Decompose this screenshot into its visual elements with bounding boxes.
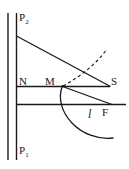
label-n: N	[19, 76, 27, 87]
label-curve-l: l	[88, 108, 91, 120]
label-m: M	[45, 76, 55, 87]
label-p2: P2	[19, 12, 29, 26]
label-p1: P1	[19, 145, 29, 159]
segment-m-to-f	[63, 87, 113, 105]
label-s: S	[111, 76, 117, 87]
label-f: F	[102, 107, 108, 118]
figure-canvas: P2 P1 N M S l F	[0, 0, 129, 169]
